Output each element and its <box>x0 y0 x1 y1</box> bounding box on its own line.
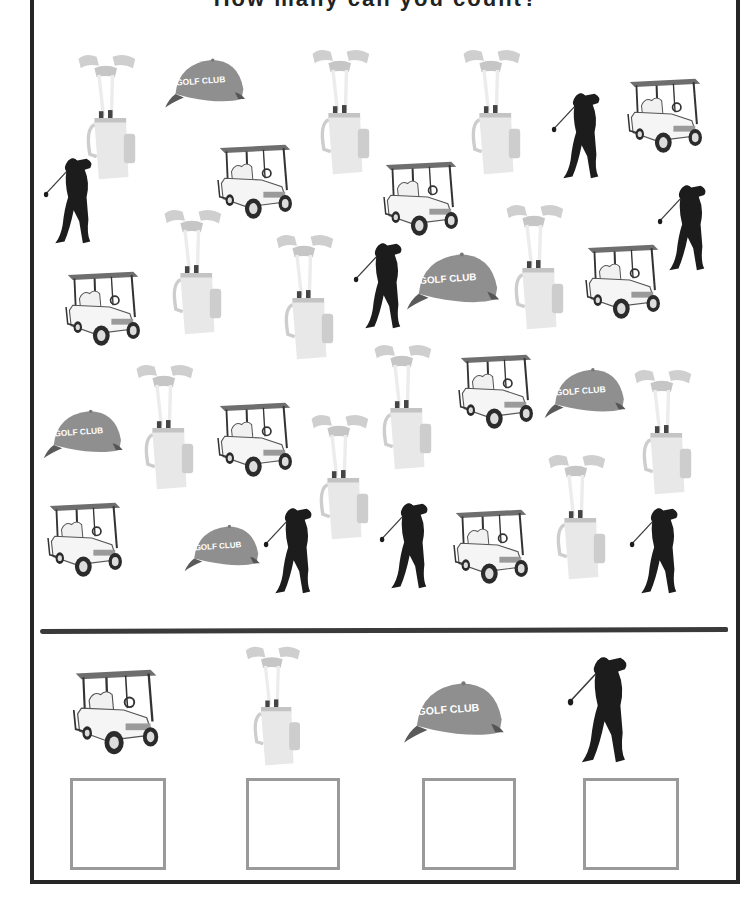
golf-cart-icon <box>622 72 708 156</box>
golf-bag-icon <box>500 200 572 336</box>
legend-golfer-icon <box>566 652 634 768</box>
golf-cart-icon <box>580 238 666 322</box>
golf-cart-icon <box>378 155 464 239</box>
legend-golf-bag-icon <box>238 642 310 772</box>
golf-bag-icon <box>130 360 202 496</box>
legend-golf-cart-icon <box>68 660 164 760</box>
golf-bag-icon <box>158 205 230 341</box>
golf-cart-icon <box>212 396 298 480</box>
golfer-icon <box>550 90 606 182</box>
golf-bag-icon <box>457 45 529 181</box>
golf-cap-icon: GOLF CLUB <box>543 363 629 423</box>
golf-bag-icon <box>270 230 342 366</box>
golf-cap-icon: GOLF CLUB <box>183 520 263 576</box>
golf-bag-icon <box>628 365 700 501</box>
golfer-icon <box>42 155 98 247</box>
golf-bag-icon <box>368 340 440 476</box>
golfer-icon <box>262 505 318 597</box>
golfer-icon <box>378 500 434 592</box>
golf-cart-icon <box>453 348 539 432</box>
golf-cap-icon: GOLF CLUB <box>42 405 126 463</box>
golf-cap-icon: GOLF CLUB <box>405 248 503 314</box>
legend-golf-cap-icon: GOLF CLUB <box>402 676 508 748</box>
golf-cart-icon <box>42 496 128 580</box>
golfer-icon <box>352 240 408 332</box>
answer-box-cap[interactable] <box>422 778 516 870</box>
golf-bag-icon <box>542 450 614 586</box>
golf-bag-icon <box>306 45 378 181</box>
golf-cart-icon <box>60 265 146 349</box>
answer-box-golfer[interactable] <box>583 778 679 870</box>
golfer-icon <box>656 182 712 274</box>
golfer-icon <box>628 505 684 597</box>
golf-cart-icon <box>448 503 534 587</box>
golf-cap-icon: GOLF CLUB <box>163 55 249 111</box>
answer-box-cart[interactable] <box>70 778 166 870</box>
answer-box-bag[interactable] <box>246 778 340 870</box>
